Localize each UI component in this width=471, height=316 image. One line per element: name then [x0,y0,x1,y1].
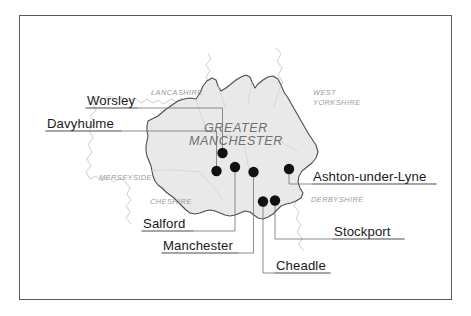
region-label-line1: GREATER [176,122,296,135]
place-label-cheadle: Cheadle [276,259,326,272]
county-label-cheshire: CHESHIRE [150,198,192,205]
county-label-derbyshire: DERBYSHIRE [311,196,364,203]
place-label-manchester: Manchester [163,239,233,252]
place-label-ashton-under-lyne: Ashton-under-Lyne [313,170,426,183]
place-label-worsley: Worsley [87,94,135,107]
marker-stockport [270,195,280,205]
region-label-greater-manchester: GREATER MANCHESTER [176,122,296,147]
county-label-lancashire: LANCASHIRE [151,89,203,96]
marker-ashton [284,164,294,174]
place-label-davyhulme: Davyhulme [47,117,114,130]
county-label-west-yorkshire-line2: YORKSHIRE [313,98,361,108]
place-label-stockport: Stockport [334,225,391,238]
marker-salford [230,162,240,172]
county-label-merseyside: MERSEYSIDE [99,174,152,181]
marker-worsley [217,148,227,158]
county-label-west-yorkshire-line1: WEST [313,88,361,98]
marker-davyhulme [211,166,221,176]
region-label-line2: MANCHESTER [176,135,296,148]
map-graphics [0,0,471,316]
marker-cheadle [258,196,268,206]
locator-map-figure: GREATER MANCHESTER LANCASHIRE WEST YORKS… [0,0,471,316]
place-label-salford: Salford [143,217,185,230]
county-label-west-yorkshire: WEST YORKSHIRE [313,88,361,108]
marker-manchester [248,167,258,177]
